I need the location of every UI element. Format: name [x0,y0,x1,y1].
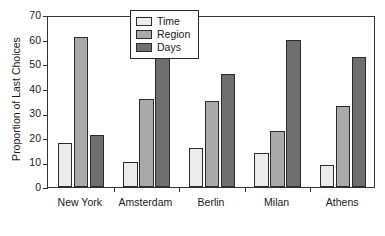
y-tick-mark [43,139,48,140]
legend-label-time: Time [157,16,180,27]
x-label-milan: Milan [264,196,289,208]
bar-time-amsterdam [123,162,138,187]
x-axis-tick [310,187,311,192]
bar-time-athens [320,165,335,187]
x-axis-tick [179,187,180,192]
bar-days-berlin [221,74,236,187]
x-label-new-york: New York [58,196,102,208]
bar-region-berlin [205,101,220,187]
bar-time-berlin [189,148,204,187]
legend-entry: Days [136,41,190,54]
y-tick-label: 40 [0,83,41,95]
y-tick-mark [43,65,48,66]
legend-entry: Time [136,15,190,28]
legend-swatch-time [136,17,152,26]
legend-swatch-days [136,43,152,52]
y-tick-label: 30 [0,107,41,119]
y-tick-label: 60 [0,34,41,46]
y-tick-label: 20 [0,132,41,144]
y-tick-label: 0 [0,181,41,193]
bar-time-new-york [58,143,73,187]
y-tick-mark [43,90,48,91]
bar-region-athens [336,106,351,187]
x-label-athens: Athens [326,196,359,208]
bar-days-athens [352,57,367,187]
bar-days-amsterdam [155,57,170,187]
chart-legend: Time Region Days [130,10,199,59]
bar-time-milan [254,153,269,187]
legend-label-days: Days [157,42,181,53]
plot-area [47,16,375,188]
legend-label-region: Region [157,29,190,40]
y-tick-label: 10 [0,156,41,168]
y-tick-label: 50 [0,58,41,70]
y-tick-mark [43,41,48,42]
bar-region-milan [270,131,285,188]
bar-region-amsterdam [139,99,154,187]
y-tick-mark [43,115,48,116]
bar-days-new-york [90,135,105,187]
y-tick-mark [43,164,48,165]
y-tick-mark [43,16,48,17]
x-label-berlin: Berlin [198,196,225,208]
x-label-amsterdam: Amsterdam [119,196,173,208]
bar-days-milan [286,40,301,187]
y-tick-mark [43,188,48,189]
x-axis-tick [114,187,115,192]
legend-swatch-region [136,30,152,39]
bar-region-new-york [74,37,89,187]
chart-figure: Proportion of Last Choices 0102030405060… [0,0,385,236]
x-axis-tick [245,187,246,192]
y-tick-label: 70 [0,9,41,21]
legend-entry: Region [136,28,190,41]
